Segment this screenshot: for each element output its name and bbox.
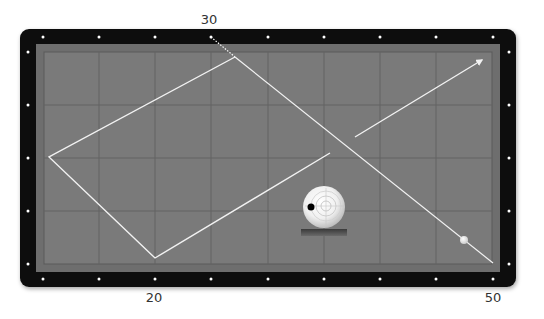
diamond-label-bottom-left: 20 — [146, 291, 163, 304]
diamond-label-bottom-right: 50 — [485, 291, 502, 304]
cue-tip-contact-point — [308, 204, 315, 211]
object-ball — [460, 236, 468, 244]
diamond-label-top: 30 — [201, 13, 218, 26]
spin-indicator-stand — [301, 229, 347, 236]
billiards-diagram: 30 20 50 — [0, 0, 544, 319]
table-graphic — [0, 0, 544, 319]
